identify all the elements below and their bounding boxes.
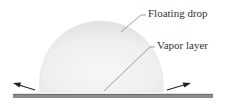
vapor-layer-label: Vapor layer <box>157 39 208 51</box>
floating-drop-label: Floating drop <box>148 7 208 19</box>
left-arrow-icon <box>13 83 35 91</box>
right-arrow-icon <box>167 83 191 91</box>
floating-drop-shape <box>40 21 164 92</box>
